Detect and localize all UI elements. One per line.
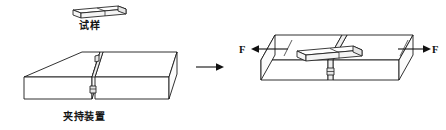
specimen-label: 试样 xyxy=(79,21,100,31)
clamping-device-label: 夹持装置 xyxy=(63,112,105,122)
clamp-block-right xyxy=(95,52,177,99)
specimen-bar-standalone xyxy=(73,6,126,18)
force-label-left: F xyxy=(239,45,245,56)
force-label-right: F xyxy=(432,45,438,56)
figure-root: 试样 夹持装置 F F xyxy=(0,0,446,130)
process-arrow xyxy=(196,63,224,71)
clamp-block-left xyxy=(24,52,100,99)
